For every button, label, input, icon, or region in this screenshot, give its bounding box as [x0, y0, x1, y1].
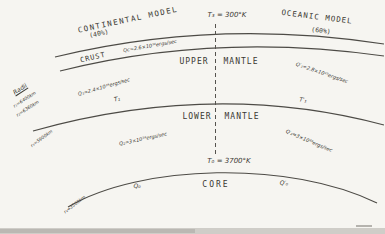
lower-mantle-label-right: MANTLE: [225, 113, 260, 121]
crust-base-arc: [60, 47, 384, 71]
thermal-model-diagram: CONTINENTAL MODEL (40%) T₃ = 300°K OCEAN…: [0, 0, 385, 234]
um-temperature-oceanic-label: T′₁: [299, 96, 307, 103]
um-temperature-continental-label: T₁: [114, 96, 121, 103]
lower-mantle-label-left: LOWER: [182, 113, 211, 121]
surface-temperature-label: T₃ = 300°K: [208, 12, 247, 19]
core-heat-flow-continental-label: Q₀: [133, 183, 140, 189]
core-heat-flow-oceanic-label: Q′₀: [279, 179, 288, 186]
upper-mantle-label-right: MANTLE: [224, 58, 259, 66]
core-boundary-temperature-label: T₀ = 3700°K: [207, 158, 250, 165]
upper-mantle-label-left: UPPER: [179, 58, 208, 66]
core-boundary-arc: [68, 173, 377, 207]
scan-edge-smudge: [0, 229, 195, 233]
core-label: CORE: [202, 181, 229, 189]
